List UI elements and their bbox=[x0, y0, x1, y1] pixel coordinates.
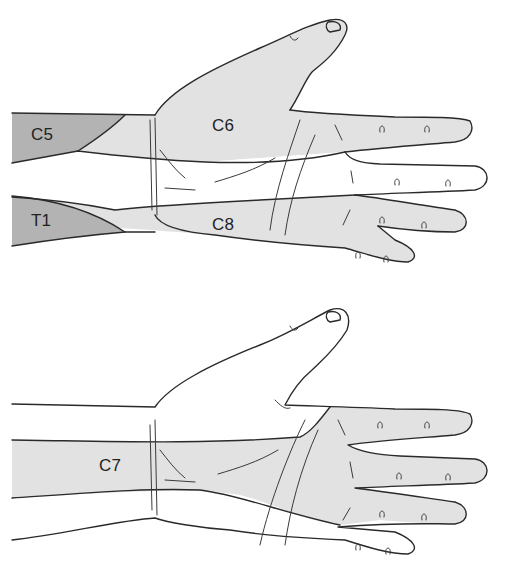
label-c6: C6 bbox=[212, 116, 234, 136]
label-c7: C7 bbox=[99, 456, 121, 476]
label-c8: C8 bbox=[212, 215, 234, 235]
label-c5: C5 bbox=[31, 125, 53, 145]
label-t1: T1 bbox=[31, 211, 51, 231]
bottom-hand-panel bbox=[12, 309, 487, 554]
top-hand-panel bbox=[12, 19, 487, 262]
dermatome-diagram bbox=[0, 0, 505, 584]
